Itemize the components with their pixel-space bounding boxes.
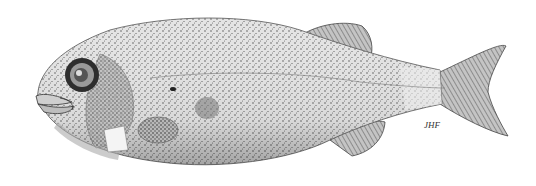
artist-signature: JHF: [424, 120, 440, 130]
pectoral-fin: [138, 117, 178, 143]
caudal-fin: [440, 45, 508, 136]
shoulder-mark: [170, 87, 176, 91]
fish-illustration: JHF: [0, 0, 536, 186]
flank-spot: [195, 97, 219, 119]
eye: [65, 58, 99, 92]
pelvic-region: [104, 126, 128, 152]
